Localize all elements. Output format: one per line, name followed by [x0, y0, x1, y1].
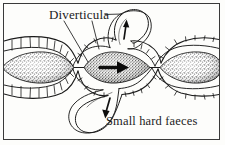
- label-diverticula: Diverticula: [49, 7, 109, 23]
- bowel-segment-left: [2, 37, 78, 99]
- bowel-segment-center: [73, 37, 161, 97]
- faecal-mass-right: [160, 52, 221, 83]
- bowel-segment-right: [152, 36, 221, 100]
- leader-line-secondary: [92, 21, 99, 49]
- diverticula-figure: Diverticula Small hard faeces: [0, 0, 225, 145]
- label-small-hard-faeces: Small hard faeces: [106, 114, 197, 129]
- diverticulum-upper-arrow-up: [123, 19, 129, 39]
- faecal-mass-left: [2, 52, 74, 83]
- leader-line-to-lower-diverticulum: [64, 21, 88, 62]
